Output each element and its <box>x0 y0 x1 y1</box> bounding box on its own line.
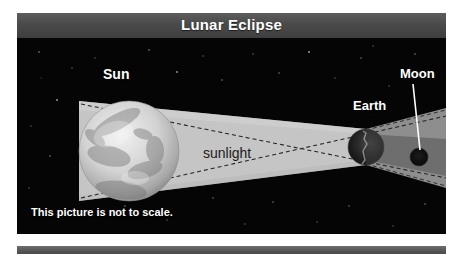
page-title: Lunar Eclipse <box>17 16 446 33</box>
label-earth: Earth <box>353 98 386 113</box>
figure-title-bar: Lunar Eclipse <box>17 13 446 38</box>
eclipse-diagram <box>17 38 446 234</box>
label-sun: Sun <box>103 66 129 82</box>
label-sunlight: sunlight <box>203 145 251 161</box>
diagram-sky-panel: Sun Earth Moon sunlight This picture is … <box>17 38 446 234</box>
bottom-divider-bar <box>17 246 446 254</box>
earth-body <box>348 129 384 165</box>
figure-caption: This picture is not to scale. <box>31 206 173 218</box>
sun-body <box>79 101 179 203</box>
moon-body <box>410 148 428 166</box>
label-moon: Moon <box>400 66 435 81</box>
lunar-eclipse-figure: Lunar Eclipse <box>17 13 446 234</box>
